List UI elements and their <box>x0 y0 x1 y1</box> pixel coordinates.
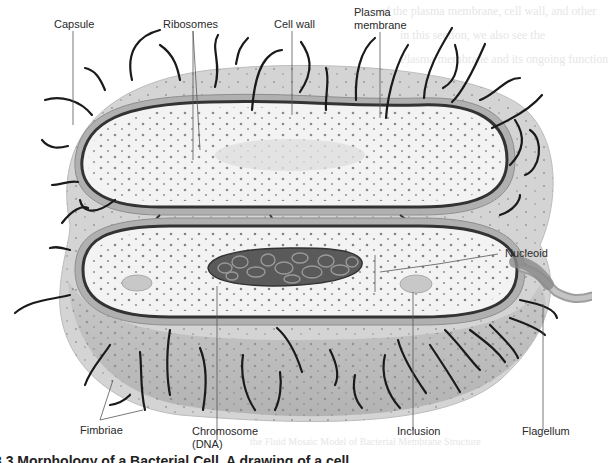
figure-caption-text: 3.3 Morphology of a Bacterial Cell. A dr… <box>0 452 592 463</box>
label-flagellum: Flagellum <box>522 425 570 438</box>
label-plasma-membrane-line2: membrane <box>354 19 407 32</box>
label-cell-wall: Cell wall <box>274 18 315 31</box>
label-ribosomes: Ribosomes <box>163 18 218 31</box>
label-capsule: Capsule <box>54 18 94 31</box>
label-chromosome-line1: Chromosome <box>192 425 258 438</box>
upper-cell <box>75 94 515 215</box>
label-fimbriae: Fimbriae <box>80 424 123 437</box>
label-chromosome-line2: (DNA) <box>192 438 223 451</box>
label-inclusion: Inclusion <box>397 425 440 438</box>
label-nucleoid: Nucleoid <box>505 247 548 260</box>
inclusion-body <box>400 275 432 293</box>
lower-cell <box>75 218 525 325</box>
inclusion-body <box>122 275 152 291</box>
label-plasma-membrane-line1: Plasma <box>354 6 391 19</box>
figure-caption: 3.3 Morphology of a Bacterial Cell. A dr… <box>0 452 592 463</box>
